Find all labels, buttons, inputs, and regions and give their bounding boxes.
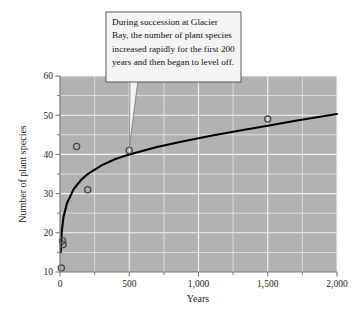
- svg-text:40: 40: [44, 150, 54, 160]
- callout-text: During succession at Glacier Bay, the nu…: [106, 12, 241, 82]
- svg-text:1,500: 1,500: [257, 279, 279, 289]
- y-axis-tick-labels: 102030405060: [44, 71, 54, 277]
- svg-text:1,000: 1,000: [188, 279, 210, 289]
- svg-text:30: 30: [44, 189, 54, 199]
- plant-species-succession-figure: 102030405060 05001,0001,5002,000 Years N…: [0, 0, 356, 317]
- svg-text:20: 20: [44, 228, 54, 238]
- x-axis-ticks: [60, 272, 337, 277]
- x-axis-title: Years: [187, 293, 209, 304]
- svg-text:50: 50: [44, 111, 54, 121]
- svg-text:500: 500: [122, 279, 137, 289]
- svg-text:2,000: 2,000: [326, 279, 348, 289]
- svg-text:10: 10: [44, 267, 54, 277]
- plot-area: [58, 76, 337, 272]
- y-axis-title: Number of plant species: [17, 125, 28, 223]
- svg-text:0: 0: [58, 279, 63, 289]
- svg-text:60: 60: [44, 71, 54, 81]
- x-axis-tick-labels: 05001,0001,5002,000: [58, 279, 348, 289]
